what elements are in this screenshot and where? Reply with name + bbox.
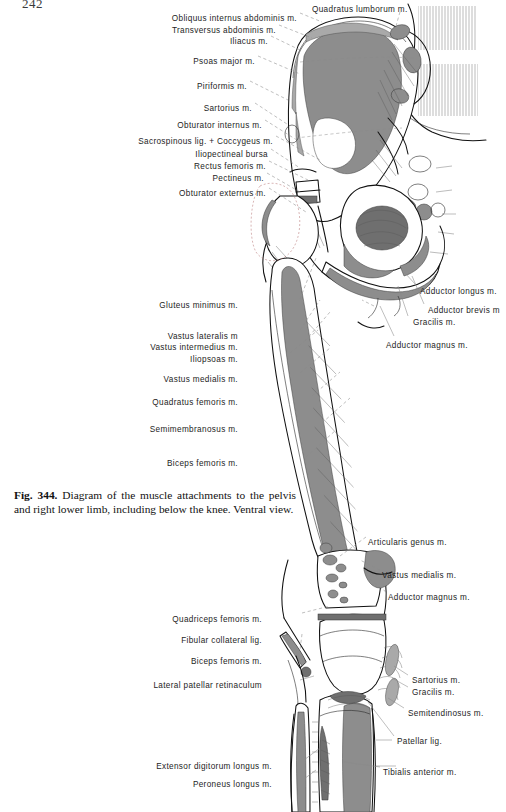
label-obturator-internus-m: Obturator internus m.: [0, 121, 262, 130]
label-vastus-medialis-m: Vastus medialis m.: [0, 375, 238, 384]
label-articularis-genus-m: Articularis genus m.: [368, 538, 447, 547]
label-adductor-magnus-m: Adductor magnus m.: [386, 341, 468, 350]
label-extensor-digitorum-longus-m: Extensor digitorum longus m.: [0, 762, 272, 771]
label-sartorius-m: Sartorius m.: [0, 104, 252, 113]
label-peroneus-longus-m: Peroneus longus m.: [0, 780, 272, 789]
label-transversus-abdominis-m: Transversus abdominis m.: [0, 26, 276, 35]
label-psoas-major-m: Psoas major m.: [0, 57, 255, 66]
label-adductor-magnus-m: Adductor magnus m.: [388, 593, 470, 602]
label-vastus-lateralis-m: Vastus lateralis m: [0, 332, 238, 341]
femur: [270, 258, 362, 578]
label-quadratus-lumborum-m: Quadratus lumborum m.: [312, 5, 408, 14]
label-pectineus-m: Pectineus m.: [0, 174, 264, 183]
label-vastus-intermedius-m: Vastus intermedius m.: [0, 343, 238, 352]
label-biceps-femoris-m: Biceps femoris m.: [0, 657, 262, 666]
label-iliopectineal-bursa: Iliopectineal bursa: [0, 150, 268, 159]
label-semimembranosus-m: Semimembranosus m.: [0, 425, 238, 434]
label-sacrospinous-lig-coccygeus-m: Sacrospinous lig. + Coccygeus m.: [0, 137, 273, 146]
lower-leg: [291, 692, 396, 812]
label-obliquus-internus-abdominis-m: Obliquus internus abdominis m.: [0, 14, 297, 23]
label-iliopsoas-m: Iliopsoas m.: [0, 355, 238, 364]
label-vastus-medialis-m: Vastus medialis m.: [382, 571, 456, 580]
label-fibular-collateral-lig: Fibular collateral lig.: [0, 636, 262, 645]
label-iliacus-m: Iliacus m.: [0, 37, 268, 46]
label-adductor-brevis-m: Adductor brevis m: [428, 306, 500, 315]
label-obturator-externus-m: Obturator externus m.: [0, 189, 266, 198]
label-gluteus-minimus-m: Gluteus minimus m.: [0, 301, 238, 310]
figure-caption-text: Diagram of the muscle attachments to the…: [14, 489, 296, 515]
label-quadratus-femoris-m: Quadratus femoris m.: [0, 398, 238, 407]
label-gracilis-m: Gracilis m.: [413, 318, 456, 327]
label-gracilis-m: Gracilis m.: [412, 688, 455, 697]
figure-caption: Fig. 344. Diagram of the muscle attachme…: [14, 488, 296, 517]
label-patellar-lig: Patellar lig.: [397, 737, 442, 746]
label-sartorius-m: Sartorius m.: [412, 676, 460, 685]
label-tibialis-anterior-m: Tibialis anterior m.: [383, 768, 457, 777]
knee: [280, 543, 402, 707]
figure-number: Fig. 344.: [14, 489, 57, 501]
label-biceps-femoris-m: Biceps femoris m.: [0, 459, 238, 468]
label-lateral-patellar-retinaculum: Lateral patellar retinaculum: [0, 681, 262, 690]
interosseous-membrane-hatching: [312, 722, 318, 802]
label-quadriceps-femoris-m: Quadriceps femoris m.: [0, 615, 262, 624]
label-semitendinosus-m: Semitendinosus m.: [408, 709, 484, 718]
label-rectus-femoris-m: Rectus femoris m.: [0, 162, 266, 171]
figure-page: 242: [0, 0, 506, 812]
label-adductor-longus-m: Adductor longus m.: [420, 287, 497, 296]
label-piriformis-m: Piriformis m.: [0, 82, 247, 91]
